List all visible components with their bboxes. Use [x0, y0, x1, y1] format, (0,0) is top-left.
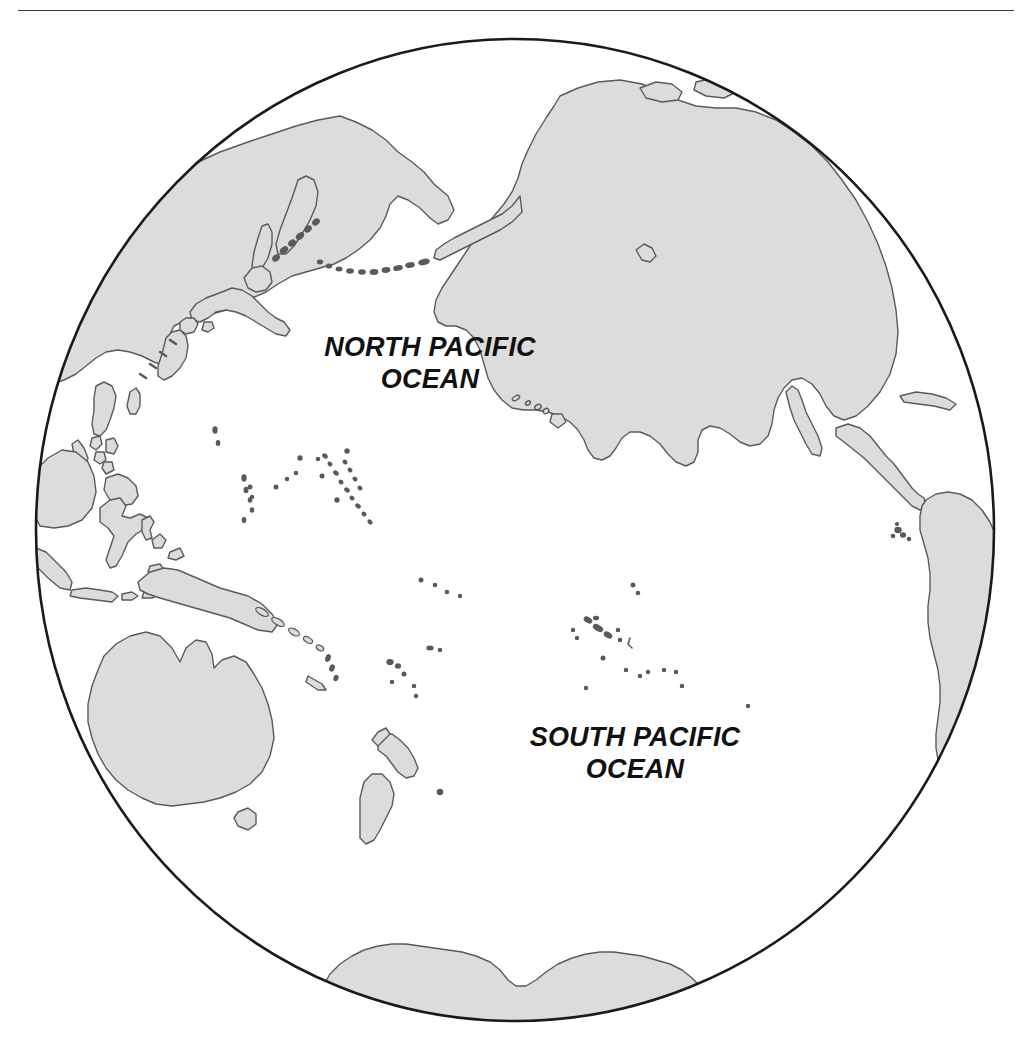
north-pacific-ocean-label: NORTH PACIFIC OCEAN: [300, 332, 560, 396]
globe-svg: [0, 0, 1028, 1045]
globe-map: NORTH PACIFIC OCEAN SOUTH PACIFIC OCEAN: [0, 0, 1028, 1045]
south-pacific-ocean-label: SOUTH PACIFIC OCEAN: [500, 722, 770, 786]
chatham-island: [437, 789, 442, 794]
easter-island: [746, 704, 749, 707]
map-page: NORTH PACIFIC OCEAN SOUTH PACIFIC OCEAN: [0, 0, 1028, 1045]
